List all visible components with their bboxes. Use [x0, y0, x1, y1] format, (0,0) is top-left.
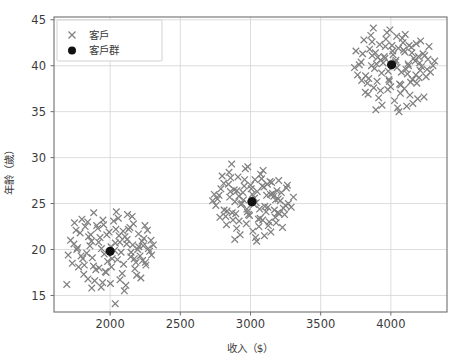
x-tick-label: 3000 — [236, 317, 265, 331]
y-tick-label: 25 — [31, 197, 46, 211]
y-tick-label: 40 — [31, 59, 46, 73]
centroid-marker — [106, 247, 115, 256]
x-tick-label: 2000 — [95, 317, 124, 331]
legend-label-customer: 客戶 — [89, 29, 109, 41]
legend-label-cluster: 客戶群 — [89, 44, 120, 56]
y-tick-label: 20 — [31, 243, 46, 257]
centroid-marker — [387, 60, 396, 69]
chart-figure: 2000250030003500400015202530354045 收入（$）… — [0, 0, 459, 364]
x-tick-label: 4000 — [376, 317, 405, 331]
x-tick-label: 3500 — [306, 317, 335, 331]
x-axis-title: 收入（$） — [227, 342, 274, 354]
y-tick-label: 15 — [31, 289, 46, 303]
legend-dot-icon — [68, 47, 76, 55]
y-axis-title: 年齡（歲） — [3, 145, 15, 195]
chart-legend[interactable]: 客戶 客戶群 — [57, 20, 162, 61]
x-tick-label: 2500 — [166, 317, 195, 331]
y-tick-label: 45 — [31, 13, 46, 27]
scatter-plot: 2000250030003500400015202530354045 收入（$）… — [0, 0, 459, 364]
y-tick-label: 35 — [31, 105, 46, 119]
centroid-marker — [247, 197, 256, 206]
y-tick-label: 30 — [31, 151, 46, 165]
